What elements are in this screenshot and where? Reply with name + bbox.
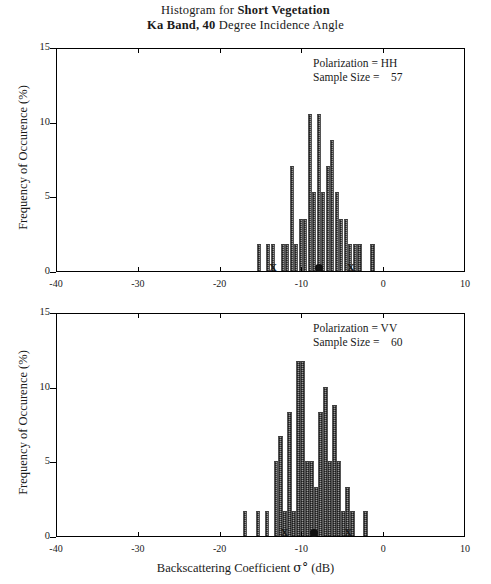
y-tick-label-vv-10: 10 bbox=[26, 381, 50, 392]
x-axis-title-prefix: Backscattering Coefficient bbox=[157, 561, 294, 575]
plot-frame-vv: XX bbox=[56, 313, 465, 537]
x-tick-top-vv-0 bbox=[383, 313, 384, 318]
x-tick-hh-0 bbox=[383, 267, 384, 272]
histogram-bar bbox=[312, 192, 316, 271]
histogram-bar bbox=[370, 244, 374, 271]
y-tick-label-hh-10: 10 bbox=[26, 116, 50, 127]
histogram-bar bbox=[357, 244, 361, 271]
sigma-naught-symbol: σ° bbox=[293, 560, 308, 575]
x-tick-vv--20 bbox=[220, 532, 221, 537]
x-tick-label-vv--30: -30 bbox=[123, 543, 153, 554]
histogram-bar bbox=[330, 140, 334, 271]
histogram-bar bbox=[257, 244, 261, 271]
x-tick-top-vv--20 bbox=[220, 313, 221, 318]
y-tick-label-hh-15: 15 bbox=[26, 41, 50, 52]
x-tick-top-hh--30 bbox=[138, 48, 139, 53]
x-tick-label-hh--10: -10 bbox=[286, 278, 316, 289]
histogram-bar bbox=[256, 511, 260, 536]
y-tick-vv-10 bbox=[50, 388, 56, 389]
histogram-bar bbox=[339, 219, 343, 271]
x-tick-label-vv-10: 10 bbox=[450, 543, 480, 554]
histogram-bar bbox=[265, 511, 269, 536]
y-tick-vv-5 bbox=[50, 462, 56, 463]
title-line-2-suffix: Degree Incidence Angle bbox=[216, 18, 345, 32]
y-axis-title-vv: Frequency of Occurence (%) bbox=[16, 303, 31, 543]
x-tick-label-vv--40: -40 bbox=[41, 543, 71, 554]
x-tick-label-vv-0: 0 bbox=[368, 543, 398, 554]
histogram-bar bbox=[336, 461, 340, 536]
histogram-bar bbox=[363, 511, 367, 536]
title-line-1-bold: Short Vegetation bbox=[237, 3, 329, 17]
x-marker-high-vv: X bbox=[342, 527, 354, 537]
y-tick-hh-0 bbox=[50, 272, 56, 273]
x-tick-top-hh--10 bbox=[301, 48, 302, 53]
histogram-bar bbox=[294, 244, 298, 271]
x-tick-label-vv--20: -20 bbox=[205, 543, 235, 554]
x-tick-label-hh-10: 10 bbox=[450, 278, 480, 289]
y-tick-vv-0 bbox=[50, 537, 56, 538]
y-tick-label-hh-5: 5 bbox=[26, 190, 50, 201]
histogram-bar bbox=[318, 412, 322, 536]
x-marker-low-hh: X bbox=[267, 262, 279, 272]
y-tick-label-vv-15: 15 bbox=[26, 306, 50, 317]
chart-title: Histogram for Short Vegetation Ka Band, … bbox=[0, 3, 491, 33]
y-tick-hh-10 bbox=[50, 123, 56, 124]
x-tick-label-hh--30: -30 bbox=[123, 278, 153, 289]
histogram-bar bbox=[243, 511, 247, 536]
x-tick-hh--30 bbox=[138, 267, 139, 272]
annotation-polarization-vv: Polarization = VV bbox=[313, 322, 397, 334]
mean-marker-vv bbox=[310, 529, 318, 537]
histogram-bar bbox=[321, 192, 325, 271]
annotation-sample-size-hh: Sample Size = 57 bbox=[313, 71, 403, 83]
x-axis-title-suffix: (dB) bbox=[308, 561, 334, 575]
histogram-bar bbox=[285, 244, 289, 271]
histogram-bar bbox=[327, 461, 331, 536]
x-tick-vv-0 bbox=[383, 532, 384, 537]
x-tick-vv--30 bbox=[138, 532, 139, 537]
histogram-bar bbox=[309, 461, 313, 536]
annotation-polarization-hh: Polarization = HH bbox=[313, 57, 397, 69]
x-tick-top-vv--30 bbox=[138, 313, 139, 318]
title-line-1: Histogram for Short Vegetation bbox=[0, 3, 491, 18]
x-marker-low-vv: X bbox=[278, 527, 290, 537]
x-tick-label-hh-0: 0 bbox=[368, 278, 398, 289]
y-tick-label-vv-0: 0 bbox=[26, 530, 50, 541]
histogram-panel-vv: Frequency of Occurence (%) XX 051015 -40… bbox=[0, 305, 491, 555]
histogram-bar bbox=[303, 219, 307, 271]
histogram-bar bbox=[291, 511, 295, 536]
x-tick-top-vv--10 bbox=[301, 313, 302, 318]
x-tick-label-vv--10: -10 bbox=[286, 543, 316, 554]
title-line-2: Ka Band, 40 Degree Incidence Angle bbox=[0, 18, 491, 33]
x-tick-label-hh--40: -40 bbox=[41, 278, 71, 289]
x-axis-title: Backscattering Coefficient σ° (dB) bbox=[0, 560, 491, 576]
plot-frame-hh: XX bbox=[56, 48, 465, 272]
y-axis-title-hh: Frequency of Occurence (%) bbox=[16, 38, 31, 278]
x-marker-high-hh: X bbox=[345, 262, 357, 272]
x-tick-vv--10 bbox=[301, 532, 302, 537]
title-line-1-prefix: Histogram for bbox=[161, 3, 237, 17]
y-tick-label-vv-5: 5 bbox=[26, 455, 50, 466]
annotation-hh: Polarization = HHSample Size = 57 bbox=[313, 56, 403, 84]
mean-marker-hh bbox=[315, 264, 323, 272]
histogram-panel-hh: Frequency of Occurence (%) XX 051015 -40… bbox=[0, 40, 491, 290]
x-tick-top-hh--20 bbox=[220, 48, 221, 53]
annotation-sample-size-vv: Sample Size = 60 bbox=[313, 336, 403, 348]
annotation-vv: Polarization = VVSample Size = 60 bbox=[313, 321, 403, 349]
x-tick-label-hh--20: -20 bbox=[205, 278, 235, 289]
x-tick-top-hh-0 bbox=[383, 48, 384, 53]
title-line-2-bold: Ka Band, 40 bbox=[147, 18, 216, 32]
x-tick-hh--10 bbox=[301, 267, 302, 272]
x-tick-hh--20 bbox=[220, 267, 221, 272]
y-tick-label-hh-0: 0 bbox=[26, 265, 50, 276]
y-tick-hh-15 bbox=[50, 48, 56, 49]
y-tick-hh-5 bbox=[50, 197, 56, 198]
y-tick-vv-15 bbox=[50, 313, 56, 314]
histogram-bar bbox=[300, 361, 304, 536]
